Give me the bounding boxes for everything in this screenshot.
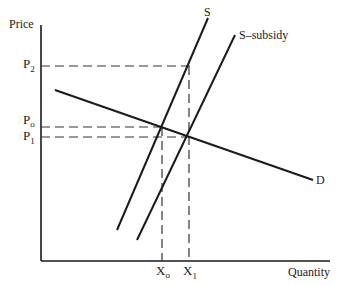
supply-subsidy-label: S–subsidy: [239, 28, 288, 42]
x-axis-label: Quantity: [288, 265, 330, 279]
supply-demand-diagram: Price Quantity P2 Po P1 Xo X1 S S–subsid…: [0, 0, 344, 285]
demand-label: D: [316, 173, 325, 187]
p1-label: P1: [23, 128, 35, 146]
supply-label: S: [204, 5, 211, 19]
demand-curve: [55, 90, 313, 180]
x0-label: Xo: [156, 263, 170, 280]
p2-label: P2: [23, 56, 35, 74]
x1-label: X1: [183, 263, 197, 281]
p0-label: Po: [23, 112, 35, 129]
y-axis-label: Price: [9, 17, 34, 31]
